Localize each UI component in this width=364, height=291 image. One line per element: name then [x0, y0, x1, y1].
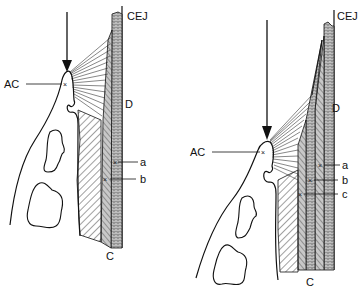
b-marker-x: ×	[308, 177, 312, 184]
label-c: C	[106, 250, 114, 262]
label-d: D	[332, 102, 340, 114]
label-ac: AC	[4, 78, 19, 90]
c-marker-x: ×	[298, 191, 302, 198]
label-cej: CEJ	[337, 10, 358, 22]
force-arrow-head-icon	[262, 126, 272, 140]
ligament-hatching	[278, 170, 298, 272]
label-a: a	[342, 159, 349, 171]
label-c-lower: c	[342, 188, 348, 200]
ligament-hatching	[77, 110, 101, 242]
alveolar-bone-outline	[10, 71, 80, 236]
b-marker-x: ×	[103, 176, 107, 183]
force-arrow-head-icon	[62, 60, 72, 72]
label-ac: AC	[190, 146, 205, 158]
diagram-panel-right: × AC CEJ D × a × b × c C	[182, 0, 364, 291]
label-b: b	[342, 174, 348, 186]
a-marker-x: ×	[113, 159, 117, 166]
label-b: b	[140, 173, 146, 185]
cementum-layer	[111, 12, 122, 248]
diagram-panel-left: × AC CEJ D × a × b C	[0, 0, 182, 291]
periodontium-figure-right: × AC CEJ D × a × b × c C	[182, 0, 364, 291]
marrow-space-2	[213, 245, 246, 285]
cementum-layer	[324, 22, 334, 270]
ac-marker-x: ×	[63, 81, 67, 88]
marrow-space-2	[27, 183, 62, 228]
ac-marker-x: ×	[261, 149, 265, 156]
label-c: C	[306, 276, 314, 288]
periodontium-figure-left: × AC CEJ D × a × b C	[0, 0, 182, 291]
marrow-space-1	[44, 130, 65, 172]
label-d: D	[125, 98, 133, 110]
alveolar-bone-outline	[196, 141, 278, 280]
label-a: a	[140, 156, 147, 168]
label-cej: CEJ	[127, 10, 148, 22]
a-marker-x: ×	[318, 162, 322, 169]
marrow-space-1	[236, 196, 257, 238]
